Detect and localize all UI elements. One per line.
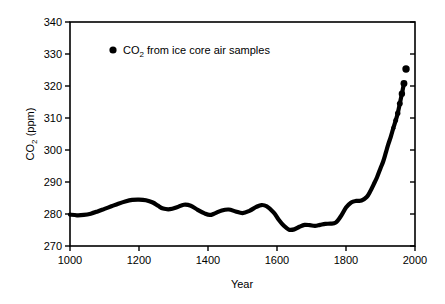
data-point <box>397 101 403 107</box>
chart-svg: 270280290300310320330340 100012001400160… <box>0 0 445 304</box>
x-axis-title: Year <box>231 278 254 290</box>
co2-ice-core-chart: 270280290300310320330340 100012001400160… <box>0 0 445 304</box>
data-point <box>401 80 408 87</box>
y-tick-label: 330 <box>44 48 62 60</box>
data-point <box>402 65 409 72</box>
data-point <box>393 118 398 123</box>
y-tick-label: 300 <box>44 144 62 156</box>
y-tick-label: 340 <box>44 16 62 28</box>
x-tick-label: 2000 <box>403 254 427 266</box>
y-tick-label: 270 <box>44 240 62 252</box>
y-tick-label: 280 <box>44 208 62 220</box>
legend-marker-filled-circle <box>109 46 116 53</box>
x-tick-label: 1800 <box>334 254 358 266</box>
x-tick-label: 1400 <box>196 254 220 266</box>
y-tick-label: 310 <box>44 112 62 124</box>
x-tick-label: 1600 <box>265 254 289 266</box>
x-tick-label: 1000 <box>58 254 82 266</box>
x-tick-label: 1200 <box>127 254 151 266</box>
data-point <box>395 111 400 116</box>
y-tick-label: 320 <box>44 80 62 92</box>
data-point <box>399 90 405 96</box>
data-point <box>391 126 395 130</box>
y-tick-label: 290 <box>44 176 62 188</box>
